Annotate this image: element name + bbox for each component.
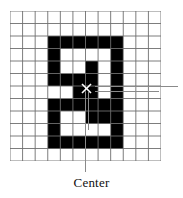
grid-cell [48, 111, 61, 124]
grid-cell [98, 11, 111, 24]
grid-cell [111, 124, 124, 137]
grid-cell [148, 36, 161, 49]
grid-cell [73, 111, 86, 124]
grid-cell [98, 111, 111, 124]
grid-cell [10, 124, 23, 137]
grid-cell [35, 74, 48, 87]
grid-cell [35, 124, 48, 137]
grid-cell [48, 86, 61, 99]
grid-cell [73, 49, 86, 62]
grid-cell [10, 36, 23, 49]
grid-cell [98, 49, 111, 62]
grid-cell [10, 49, 23, 62]
grid-cell [98, 24, 111, 37]
grid-cell [23, 61, 36, 74]
grid-cell [10, 136, 23, 149]
grid-cell [123, 111, 136, 124]
grid-cell [73, 11, 86, 24]
grid-cell [136, 149, 149, 162]
grid-cell [148, 99, 161, 112]
center-leader-line-secondary [88, 92, 89, 130]
grid-cell [48, 61, 61, 74]
grid-cell [35, 61, 48, 74]
grid-cell [85, 74, 98, 87]
grid-cell [23, 49, 36, 62]
grid-cell [10, 149, 23, 162]
grid-cell [10, 61, 23, 74]
grid-cell [123, 99, 136, 112]
grid-cell [23, 124, 36, 137]
grid-cell [35, 24, 48, 37]
grid-cell [35, 111, 48, 124]
grid-cell [98, 36, 111, 49]
grid-cell [111, 149, 124, 162]
grid-cell [48, 24, 61, 37]
grid-cell [10, 86, 23, 99]
grid-cell [148, 136, 161, 149]
grid-cell [85, 11, 98, 24]
grid-cell [123, 36, 136, 49]
grid-cell [35, 86, 48, 99]
grid-cell [48, 124, 61, 137]
grid-cell [136, 36, 149, 49]
grid-cell [23, 36, 36, 49]
grid-cell [73, 24, 86, 37]
grid-cell [98, 99, 111, 112]
grid-cell [123, 136, 136, 149]
grid-cell [136, 11, 149, 24]
grid-cell [123, 11, 136, 24]
grid-cell [10, 11, 23, 24]
grid-cell [48, 74, 61, 87]
grid-cell [60, 49, 73, 62]
grid-cell [48, 136, 61, 149]
grid-cell [98, 74, 111, 87]
grid-cell [111, 99, 124, 112]
grid-cell [98, 149, 111, 162]
grid-cell [123, 149, 136, 162]
grid-cell [136, 124, 149, 137]
grid-cell [48, 11, 61, 24]
grid-cell [10, 99, 23, 112]
grid-cell [73, 99, 86, 112]
grid-cell [73, 86, 86, 99]
grid-cell [148, 149, 161, 162]
grid-cell [60, 149, 73, 162]
grid-cell [85, 24, 98, 37]
grid-cell [60, 74, 73, 87]
grid-cell [111, 86, 124, 99]
grid-cell [35, 99, 48, 112]
grid-cell [111, 24, 124, 37]
grid-cell [123, 74, 136, 87]
grid-cell [85, 61, 98, 74]
grid-cell [148, 74, 161, 87]
grid-cell [111, 136, 124, 149]
grid-cell [73, 74, 86, 87]
grid-cell [123, 61, 136, 74]
grid-cell [60, 11, 73, 24]
grid-cell [60, 99, 73, 112]
grid-cell [10, 111, 23, 124]
caption-center-label: Center [0, 174, 183, 191]
grid-cell [148, 86, 161, 99]
grid-cell [23, 74, 36, 87]
grid-cell [136, 99, 149, 112]
grid-cell [111, 11, 124, 24]
grid-cell [35, 149, 48, 162]
right-leader-line-upper [95, 86, 178, 87]
grid-cell [148, 111, 161, 124]
grid-cell [48, 149, 61, 162]
grid-cell [148, 124, 161, 137]
grid-cell [23, 86, 36, 99]
grid-cell [111, 49, 124, 62]
grid-cell [85, 136, 98, 149]
grid-cell [73, 136, 86, 149]
grid-cell [85, 36, 98, 49]
grid-cell [98, 86, 111, 99]
grid-cell [60, 61, 73, 74]
grid-cell [23, 99, 36, 112]
grid-cell [85, 149, 98, 162]
grid-cell [123, 124, 136, 137]
grid-cell [60, 86, 73, 99]
grid-cell [35, 36, 48, 49]
grid-cell [98, 136, 111, 149]
